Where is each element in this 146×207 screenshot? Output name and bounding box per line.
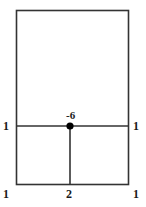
label-node-value: -6 <box>66 109 75 121</box>
label-bottom-right: 1 <box>133 188 139 200</box>
label-right-mid: 1 <box>133 120 139 132</box>
diagram-figure <box>0 0 146 207</box>
diagram-canvas: 1 1 -6 1 2 1 <box>0 0 146 207</box>
label-bottom-mid: 2 <box>66 188 72 200</box>
outer-rectangle <box>17 11 129 185</box>
label-bottom-left: 1 <box>3 188 9 200</box>
label-left-mid: 1 <box>3 120 9 132</box>
junction-node-dot <box>66 122 73 129</box>
